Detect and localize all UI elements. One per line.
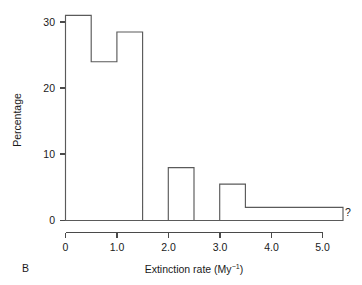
x-axis-title-main: Extinction rate (My <box>145 263 233 275</box>
y-tick-label-30: 30 <box>43 16 55 28</box>
panel-letter: B <box>22 262 29 274</box>
figure-panel-b: 30 20 10 0 Percentage 0 1.0 2.0 3.0 4.0 … <box>0 0 362 285</box>
y-tick-label-10: 10 <box>43 148 55 160</box>
x-axis-title-tail: ) <box>240 263 244 275</box>
x-tick-label-5: 5.0 <box>315 241 330 253</box>
x-tick-label-3: 3.0 <box>213 241 228 253</box>
x-tick-label-1: 1.0 <box>110 241 125 253</box>
uncertainty-annotation: ? <box>345 206 351 218</box>
x-tick-label-0: 0 <box>63 241 69 253</box>
x-tick-label-4: 4.0 <box>264 241 279 253</box>
x-axis-title-superscript: −1 <box>232 262 240 271</box>
y-axis: 30 20 10 0 <box>43 16 65 226</box>
x-tick-label-2: 2.0 <box>161 241 176 253</box>
x-axis: 0 1.0 2.0 3.0 4.0 5.0 <box>63 233 330 254</box>
x-axis-title: Extinction rate (My−1) <box>145 262 244 275</box>
y-tick-label-0: 0 <box>49 214 55 226</box>
histogram-step-outline <box>66 15 344 220</box>
histogram-chart: 30 20 10 0 Percentage 0 1.0 2.0 3.0 4.0 … <box>0 0 362 285</box>
y-tick-label-20: 20 <box>43 82 55 94</box>
y-axis-title: Percentage <box>11 93 23 147</box>
